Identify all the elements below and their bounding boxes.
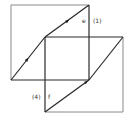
diagonal-edge-right [89, 37, 123, 80]
edge-index-1: (1) [93, 17, 102, 24]
edge-label-f: f [48, 93, 51, 100]
edge-label-e: e [82, 17, 86, 24]
diagram-canvas: e (1) (4) f [0, 0, 130, 121]
lower-square-frame [45, 37, 123, 112]
edge-index-4: (4) [32, 93, 41, 100]
upper-square-frame [11, 5, 89, 80]
diagonal-edge-bottom [45, 80, 89, 112]
